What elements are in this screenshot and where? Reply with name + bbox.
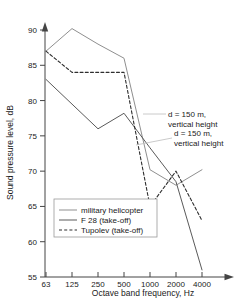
y-tick-label: 65	[28, 202, 37, 211]
series-line-1	[46, 79, 202, 270]
y-tick-label: 75	[28, 132, 37, 141]
x-axis-ticks	[46, 272, 202, 277]
annotation-lower: d = 150 m, vertical height	[136, 129, 224, 148]
y-axis-tick-labels: 5560657075808590	[28, 26, 37, 282]
legend-label-1: F 28 (take-off)	[81, 216, 131, 225]
legend-label-2: Tupolev (take-off)	[81, 226, 144, 235]
y-tick-label: 90	[28, 26, 37, 35]
chart-canvas: 5560657075808590 Sound pressure level, d…	[0, 0, 242, 303]
x-axis-arrow-icon	[225, 274, 235, 280]
x-tick-label: 4000	[193, 280, 211, 289]
x-tick-label: 63	[42, 280, 51, 289]
y-tick-label: 60	[28, 238, 37, 247]
annotation-lower-leader	[136, 138, 172, 145]
y-tick-label: 70	[28, 167, 37, 176]
annotation-upper-line1: d = 150 m,	[168, 110, 206, 119]
y-axis: 5560657075808590 Sound pressure level, d…	[5, 22, 48, 282]
legend-label-0: military helicopter	[81, 206, 144, 215]
legend: military helicopterF 28 (take-off)Tupole…	[54, 199, 157, 237]
y-tick-label: 80	[28, 97, 37, 106]
y-tick-label: 55	[28, 273, 37, 282]
annotation-upper-line2: vertical height	[168, 120, 218, 129]
annotation-lower-line2: vertical height	[174, 139, 224, 148]
y-axis-title: Sound pressure level, dB	[5, 105, 15, 200]
annotation-upper: d = 150 m, vertical height	[143, 110, 218, 129]
y-axis-ticks	[40, 30, 45, 277]
series-line-0	[46, 29, 202, 186]
y-tick-label: 85	[28, 61, 37, 70]
x-axis: 63125250500100020004000 Octave band freq…	[42, 272, 234, 298]
sound-pressure-level-chart: 5560657075808590 Sound pressure level, d…	[0, 0, 242, 303]
x-tick-label: 125	[65, 280, 79, 289]
annotation-lower-line1: d = 150 m,	[174, 129, 212, 138]
x-axis-title: Octave band frequency, Hz	[92, 288, 194, 298]
